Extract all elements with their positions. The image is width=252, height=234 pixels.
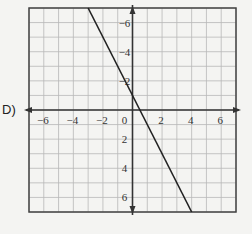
y-axis-down-arrow-icon [130,206,136,214]
x-tick-label: 2 [158,114,164,126]
axes [24,5,241,215]
x-tick-label: −2 [96,114,108,126]
y-tick-label: −6 [119,17,131,29]
coordinate-plane: −6−4−20246642−2−4−6 [0,0,252,234]
y-tick-label: 2 [122,133,128,145]
x-tick-label: 0 [122,114,128,126]
x-axis-left-arrow-icon [24,107,32,113]
y-tick-label: −4 [119,46,131,58]
x-tick-label: −6 [37,114,49,126]
x-axis-right-arrow-icon [233,107,241,113]
y-axis-up-arrow-icon [130,6,136,14]
y-tick-label: 4 [122,162,128,174]
x-tick-label: 6 [217,114,223,126]
x-tick-label: 4 [188,114,194,126]
x-tick-label: −4 [66,114,78,126]
y-tick-label: 6 [122,191,128,203]
